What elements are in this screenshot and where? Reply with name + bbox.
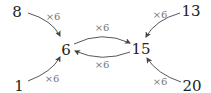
node-13: 13 [181, 2, 200, 20]
edge-label-15-6: ×6 [95, 59, 110, 70]
edge-label-13-15: ×6 [153, 9, 168, 20]
edge-label-6-15: ×6 [95, 22, 110, 33]
node-20: 20 [182, 77, 201, 93]
edge-label-8-6: ×6 [46, 11, 61, 22]
multiplication-diagram: 8 1 6 15 13 20 ×6 ×6 ×6 ×6 ×6 ×6 [0, 0, 211, 93]
node-6: 6 [61, 41, 71, 59]
edge-6-to-15 [74, 37, 130, 44]
node-8: 8 [12, 3, 22, 21]
edge-label-1-6: ×6 [45, 73, 60, 84]
edge-label-20-15: ×6 [153, 76, 168, 87]
node-15: 15 [131, 40, 150, 58]
edge-15-to-6 [75, 51, 130, 57]
node-1: 1 [14, 77, 24, 93]
